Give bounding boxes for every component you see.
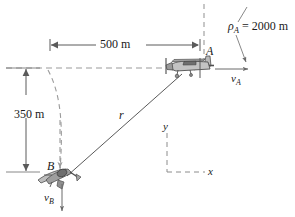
rho-value: = 2000 m: [239, 19, 288, 33]
velocity-b-subscript: B: [49, 197, 54, 206]
velocity-a-subscript: A: [236, 78, 241, 87]
label-point-a: A: [206, 45, 213, 57]
aircraft-a: [166, 56, 214, 78]
dashed-descent-path: [48, 70, 61, 170]
label-dimension-500m: 500 m: [100, 38, 130, 50]
coordinate-axes: [167, 133, 205, 172]
label-dimension-350m: 350 m: [14, 108, 44, 120]
dim-arrow-left: [51, 42, 58, 49]
label-vector-r: r: [119, 109, 124, 121]
rho-leader-lower: [236, 35, 246, 62]
dim-arrow-right: [192, 42, 199, 49]
label-point-b: B: [47, 160, 54, 172]
label-axis-y: y: [163, 121, 168, 132]
kinematics-figure: ρA = 2000 m 500 m 350 m A B r vA vB y x: [0, 0, 295, 217]
dim-arrow-down: [23, 164, 30, 171]
label-velocity-a: vA: [231, 73, 241, 87]
label-axis-x: x: [208, 166, 213, 177]
label-rho-a: ρA = 2000 m: [228, 20, 288, 35]
dashed-reference-lines: [6, 4, 204, 170]
dim-arrow-up: [23, 69, 30, 76]
label-velocity-b: vB: [44, 192, 54, 206]
aircraft-b: [38, 168, 81, 189]
